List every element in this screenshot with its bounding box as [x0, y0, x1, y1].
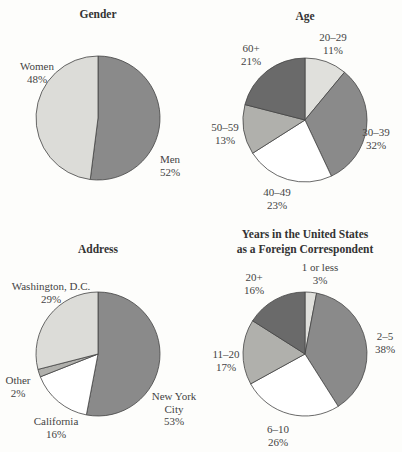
slice-label: 20–29 [319, 31, 347, 43]
slice-label: 2–5 [377, 330, 394, 342]
slice-label: 30–39 [362, 126, 390, 138]
chart-title-gender: Gender [79, 8, 116, 20]
slice-label: 29% [41, 293, 61, 305]
slice-label: Washington, D.C. [12, 280, 91, 292]
slice-label: 16% [46, 428, 66, 440]
slice-label: 6–10 [267, 423, 290, 435]
slice-label: 3% [313, 274, 328, 286]
slice-label: 20+ [245, 271, 262, 283]
pie-gender [36, 56, 160, 180]
slice-label: 52% [160, 166, 180, 178]
chart-title-address: Address [78, 243, 119, 255]
chart-title-age: Age [295, 10, 314, 23]
slice-label: 16% [244, 284, 264, 296]
slice-label: 48% [27, 73, 47, 85]
pie-charts-figure: Gender Age Address Years in the United S… [0, 0, 402, 452]
slice-label: City [165, 403, 184, 415]
slice-label: 21% [241, 55, 261, 67]
slice-label: 1 or less [302, 261, 339, 273]
slice-label: Men [160, 153, 181, 165]
slice-label: 13% [215, 134, 235, 146]
pie-address [36, 292, 160, 416]
slice-label: 26% [268, 436, 288, 448]
slice-label: 2% [11, 387, 26, 399]
pie-age [243, 58, 367, 182]
slice-label: 40–49 [263, 186, 291, 198]
slice-label: 17% [216, 361, 236, 373]
slice-label: 53% [164, 415, 184, 427]
slice-label: 38% [375, 343, 395, 355]
slice-label: 50–59 [211, 121, 239, 133]
slice-label: 11–20 [212, 348, 240, 360]
slice-label: 23% [267, 199, 287, 211]
slice-label: Other [5, 374, 30, 386]
slice-label: 11% [323, 44, 343, 56]
chart-title-years-line1: Years in the United States [242, 228, 369, 240]
pie-years [243, 292, 367, 416]
slice-label: Women [20, 60, 54, 72]
chart-title-years-line2: as a Foreign Correspondent [237, 243, 374, 256]
slice-label: 60+ [242, 42, 259, 54]
pie-slice [90, 56, 160, 180]
slice-label: New York [152, 390, 197, 402]
slice-label: California [34, 415, 79, 427]
slice-label: 32% [366, 139, 386, 151]
